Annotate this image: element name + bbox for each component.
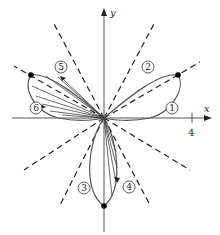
label-6: 6	[30, 102, 42, 114]
x-tick-label: 4	[188, 127, 194, 138]
svg-text:6: 6	[33, 103, 39, 113]
label-5: 5	[55, 61, 67, 73]
svg-text:2: 2	[145, 62, 151, 72]
x-axis-label: x	[204, 103, 210, 114]
petal-tip-dot-left	[28, 72, 34, 78]
label-1: 1	[166, 102, 178, 114]
petal-bottom	[90, 118, 117, 206]
label-3: 3	[78, 182, 90, 194]
polar-rose-figure: x y 4 1 2 3	[0, 0, 220, 235]
dashed-line-210deg	[24, 118, 104, 170]
direction-arrow-icon	[60, 76, 66, 81]
x-axis-arrow-icon	[204, 115, 212, 121]
petal-tip-dot-bottom	[101, 203, 107, 209]
direction-arrow-icon	[114, 177, 120, 183]
svg-text:1: 1	[169, 103, 175, 113]
svg-text:5: 5	[58, 62, 64, 72]
svg-text:4: 4	[126, 182, 132, 192]
y-axis-label: y	[109, 7, 116, 18]
label-2: 2	[142, 61, 154, 73]
petal-tip-dot-right	[175, 72, 181, 78]
y-axis-arrow-icon	[101, 8, 107, 16]
label-4: 4	[123, 181, 135, 193]
dashed-line-150deg	[14, 66, 104, 118]
svg-text:3: 3	[81, 183, 87, 193]
